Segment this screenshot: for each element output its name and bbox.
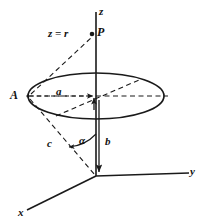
point-label-p: P — [97, 26, 104, 38]
angle-label-alpha: α — [79, 135, 85, 146]
axis-label-y: y — [190, 166, 195, 177]
ellipse-diagonal-dashed — [56, 80, 139, 116]
segment-label-b: b — [105, 136, 111, 147]
y-axis-line — [96, 173, 189, 176]
segment-c-dashed — [30, 99, 95, 175]
x-axis-line — [27, 176, 96, 210]
axis-label-x: x — [18, 207, 24, 218]
axis-label-z: z — [99, 6, 103, 17]
segment-label-c: c — [47, 138, 52, 149]
segment-label-a: a — [56, 86, 62, 97]
point-label-a: A — [10, 89, 18, 101]
figure-canvas: z y x z = r P A a b c α — [0, 0, 203, 223]
point-a-marker — [26, 94, 29, 97]
segment-a-to-p-dashed — [31, 36, 93, 94]
point-p-marker — [90, 32, 95, 37]
label-z-equals-r: z = r — [48, 28, 68, 39]
